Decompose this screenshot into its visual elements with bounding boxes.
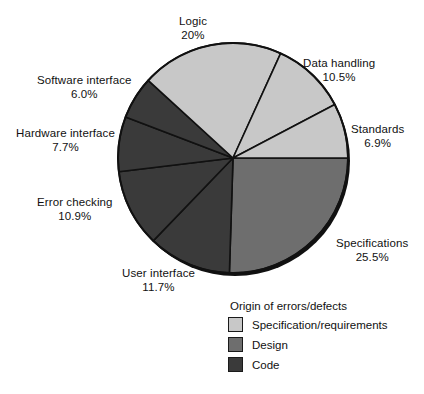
slice-label: Standards6.9% <box>351 122 404 150</box>
slice-label-percent: 11.7% <box>122 280 195 294</box>
slice-label-name: Data handling <box>303 56 375 70</box>
slice-label-name: Software interface <box>37 73 132 87</box>
legend-item-label: Code <box>252 359 280 371</box>
slice-label: Error checking10.9% <box>37 195 113 223</box>
slice-label-name: Logic <box>179 14 207 28</box>
pie-slice[interactable] <box>229 158 348 273</box>
legend-swatch-icon <box>228 337 243 352</box>
slice-label-name: Hardware interface <box>16 126 115 140</box>
slice-label: User interface11.7% <box>122 266 195 294</box>
slice-label-name: Specifications <box>336 236 408 250</box>
chart-legend: Origin of errors/defects Specification/r… <box>228 300 418 377</box>
slice-label: Hardware interface7.7% <box>16 126 115 154</box>
slice-label-percent: 10.9% <box>37 209 113 223</box>
slice-label-percent: 6.9% <box>351 136 404 150</box>
slice-label: Specifications25.5% <box>336 236 408 264</box>
pie-chart-figure: Specifications25.5%User interface11.7%Er… <box>0 0 424 394</box>
slice-label: Data handling10.5% <box>303 56 375 84</box>
slice-label: Software interface6.0% <box>37 73 132 101</box>
legend-items: Specification/requirementsDesignCode <box>228 317 418 372</box>
slice-label-percent: 7.7% <box>16 140 115 154</box>
legend-item[interactable]: Code <box>228 357 418 372</box>
legend-item-label: Specification/requirements <box>252 319 388 331</box>
legend-swatch-icon <box>228 317 243 332</box>
slice-label-percent: 6.0% <box>37 87 132 101</box>
slice-label-percent: 25.5% <box>336 250 408 264</box>
legend-title: Origin of errors/defects <box>230 300 418 312</box>
legend-item[interactable]: Design <box>228 337 418 352</box>
slice-label-name: User interface <box>122 266 195 280</box>
legend-swatch-icon <box>228 357 243 372</box>
slice-label-name: Error checking <box>37 195 113 209</box>
slice-label-name: Standards <box>351 122 404 136</box>
slice-label-percent: 10.5% <box>303 70 375 84</box>
legend-item-label: Design <box>252 339 288 351</box>
legend-item[interactable]: Specification/requirements <box>228 317 418 332</box>
slice-label: Logic20% <box>179 14 207 42</box>
slice-label-percent: 20% <box>179 28 207 42</box>
